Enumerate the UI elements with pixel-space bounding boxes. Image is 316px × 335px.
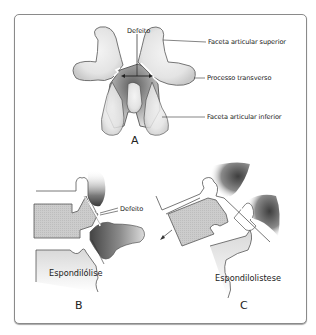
label-transverse-process: Processo transverso bbox=[207, 74, 271, 82]
vertebra-a bbox=[73, 27, 206, 136]
panel-letter-a: A bbox=[131, 134, 139, 147]
caption-spondylolisthesis: Espondilolistese bbox=[215, 273, 281, 283]
label-superior-facet: Faceta articular superior bbox=[208, 38, 286, 46]
caption-spondylolysis: Espondilólise bbox=[49, 268, 102, 278]
spine-illustration bbox=[0, 0, 316, 335]
label-defect-a: Defeito bbox=[127, 27, 150, 35]
label-inferior-facet: Faceta articular inferior bbox=[207, 113, 281, 121]
label-defect-b: Defeito bbox=[120, 205, 143, 213]
panel-letter-b: B bbox=[75, 299, 83, 312]
panel-letter-c: C bbox=[240, 299, 248, 312]
